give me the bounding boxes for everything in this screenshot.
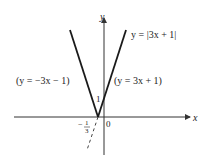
x-axis-label: x bbox=[192, 112, 198, 123]
x-intercept-denominator: 3 bbox=[85, 127, 89, 135]
origin-label: 0 bbox=[106, 119, 111, 129]
y-intercept-label: 1 bbox=[96, 94, 101, 104]
left-branch-label: (y = −3x − 1) bbox=[16, 75, 70, 87]
right-branch-line bbox=[98, 30, 126, 117]
abs-curve-label: y = |3x + 1| bbox=[131, 29, 176, 40]
x-intercept-sign: − bbox=[78, 120, 83, 129]
graph: y x 0 y = |3x + 1| (y = −3x − 1) (y = 3x… bbox=[0, 0, 202, 163]
right-branch-label: (y = 3x + 1) bbox=[114, 75, 162, 87]
x-intercept-numerator: 1 bbox=[85, 119, 89, 127]
dashed-extension-line bbox=[87, 117, 98, 150]
y-axis-label: y bbox=[99, 11, 105, 22]
left-branch-line bbox=[70, 30, 98, 117]
